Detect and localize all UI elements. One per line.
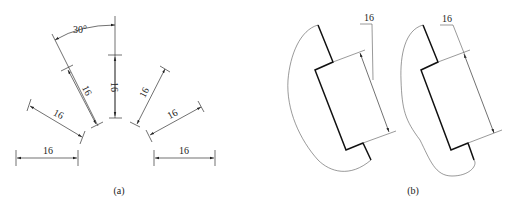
part-outline-right xyxy=(401,25,475,176)
dimension-left-horizontal: 16 xyxy=(16,145,78,166)
figure-canvas: 30° 16 16 16 1 xyxy=(0,0,512,207)
angle-label: 30° xyxy=(73,24,87,35)
dimension-label-left-60: 16 xyxy=(80,83,94,97)
panel-a: 30° 16 16 16 1 xyxy=(16,16,215,197)
dimension-vertical: 16 xyxy=(108,16,122,118)
panel-b: 16 16 (b) xyxy=(288,12,502,197)
angle-30-annotation: 30° xyxy=(55,24,115,40)
dimension-label-right-horizontal: 16 xyxy=(179,145,189,156)
part-edge-right xyxy=(421,25,474,160)
dimension-label-right-30: 16 xyxy=(165,107,179,121)
dimension-left-30: 16 xyxy=(27,99,85,144)
part-edge-left xyxy=(315,25,371,160)
dimension-label-left-variant: 16 xyxy=(364,12,374,23)
caption-b: (b) xyxy=(407,185,419,197)
dimension-right-30: 16 xyxy=(146,101,204,142)
caption-a: (a) xyxy=(113,185,124,197)
part-outline-left xyxy=(288,25,371,171)
dimension-label-right-60: 16 xyxy=(137,85,151,99)
dimension-label-vertical: 16 xyxy=(109,82,120,92)
dimension-label-right-variant: 16 xyxy=(442,13,452,24)
dimension-label-left-horizontal: 16 xyxy=(43,145,53,156)
dimension-right-60: 16 xyxy=(130,66,170,127)
dimension-label-left-30: 16 xyxy=(52,107,66,121)
part-right: 16 xyxy=(401,13,502,176)
part-left: 16 xyxy=(288,12,396,171)
dimension-right-horizontal: 16 xyxy=(154,145,215,166)
